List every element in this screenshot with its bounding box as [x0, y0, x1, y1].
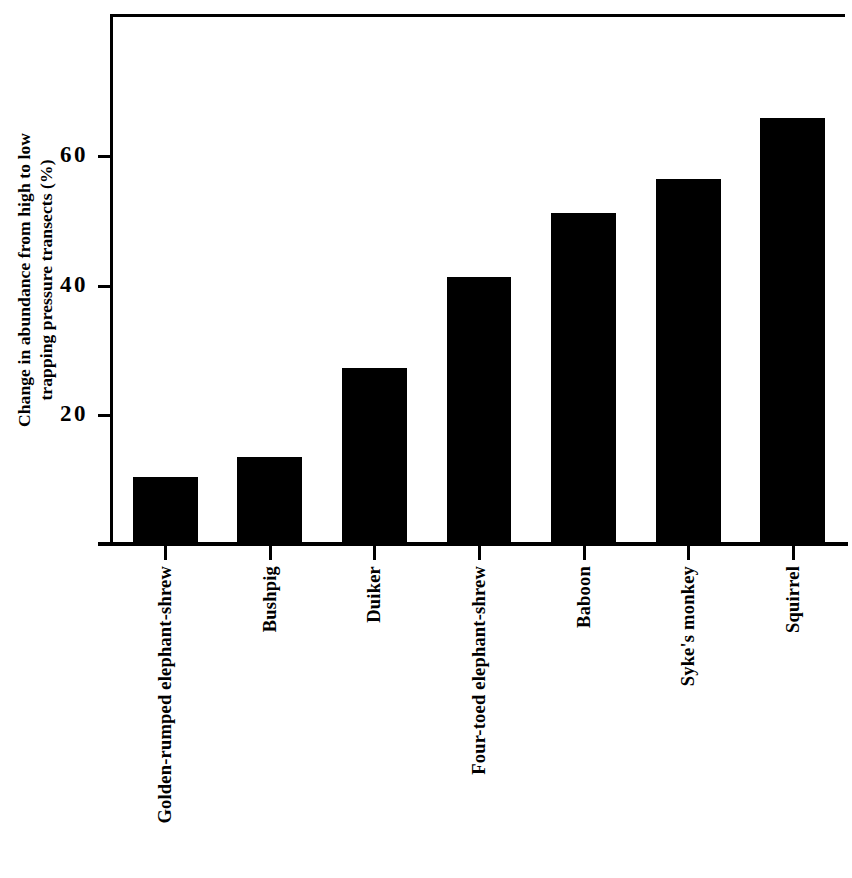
x-axis-category-label: Squirrel — [782, 566, 803, 633]
bar — [447, 277, 512, 544]
y-axis-tick — [98, 414, 113, 417]
bar — [237, 457, 302, 544]
bar — [656, 179, 721, 544]
x-axis-category-label: Baboon — [573, 566, 594, 628]
y-axis-tick-label: 20 — [60, 402, 88, 425]
x-axis-tick — [792, 546, 795, 560]
bar — [551, 213, 616, 544]
x-axis-category-label: Golden-rumped elephant-shrew — [155, 566, 176, 824]
x-axis-tick — [478, 546, 481, 560]
x-axis-category-label: Four-toed elephant-shrew — [469, 566, 490, 775]
x-axis-category-label: Syke's monkey — [678, 566, 699, 686]
y-axis-title-text: Change in abundance from high to low tra… — [14, 133, 58, 427]
x-axis-tick — [269, 546, 272, 560]
y-axis-title-line-1: Change in abundance from high to low — [14, 133, 36, 427]
y-axis-tick — [98, 285, 113, 288]
bar — [342, 368, 407, 544]
x-axis-category-label: Bushpig — [259, 566, 280, 632]
x-axis-tick — [687, 546, 690, 560]
bar — [760, 118, 825, 544]
bar-chart-figure: Change in abundance from high to low tra… — [0, 0, 852, 878]
y-axis-tick-label: 40 — [60, 273, 88, 296]
x-axis-category-label: Duiker — [364, 566, 385, 623]
x-axis-tick — [373, 546, 376, 560]
bar-series — [113, 14, 845, 544]
x-axis-tick — [583, 546, 586, 560]
x-axis-tick — [164, 546, 167, 560]
y-axis-tick — [98, 155, 113, 158]
y-axis-title-line-2: trapping pressure transects (%) — [36, 133, 58, 427]
y-axis-tick-label: 60 — [60, 143, 88, 166]
bar — [133, 477, 198, 544]
